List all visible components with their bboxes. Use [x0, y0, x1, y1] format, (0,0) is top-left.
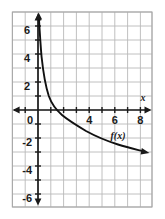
coordinate-plane-svg: 6 4 2 0 -2 -4 -6 4 6 8 x f(x)	[0, 0, 165, 219]
y-tick-label-negative-2: -2	[22, 136, 32, 148]
y-tick-label-negative-4: -4	[22, 164, 33, 176]
function-label: f(x)	[111, 130, 126, 142]
y-tick-label-4: 4	[24, 52, 31, 64]
y-tick-label-2: 2	[24, 80, 30, 92]
x-tick-label-8: 8	[137, 114, 143, 126]
x-axis-label: x	[140, 92, 146, 103]
y-tick-label-negative-6: -6	[22, 192, 32, 204]
x-tick-label-6: 6	[112, 114, 118, 126]
y-tick-label-6: 6	[24, 24, 30, 36]
y-tick-label-0: 0	[27, 114, 33, 126]
graph-figure: 6 4 2 0 -2 -4 -6 4 6 8 x f(x)	[0, 0, 165, 219]
x-tick-label-4: 4	[86, 114, 93, 126]
